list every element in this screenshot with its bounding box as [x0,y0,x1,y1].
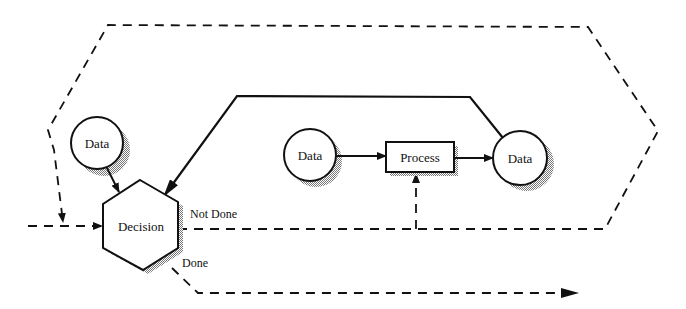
decision-node[interactable]: Decision [103,180,183,274]
done-dashed-arrow [172,268,578,293]
data-node-left[interactable]: Data [71,117,130,176]
done-label: Done [182,256,208,270]
flow-diagram: Data Decision Not Done Done Data Process… [0,0,686,309]
data-node-middle-label: Data [298,148,323,163]
data-node-right-label: Data [508,151,533,166]
data-node-right[interactable]: Data [493,131,554,191]
data-node-middle[interactable]: Data [284,129,342,187]
process-node-label: Process [400,150,440,165]
decision-node-label: Decision [118,219,165,234]
process-node[interactable]: Process [386,142,458,176]
data-node-left-label: Data [85,136,110,151]
not-done-label: Not Done [190,207,237,221]
